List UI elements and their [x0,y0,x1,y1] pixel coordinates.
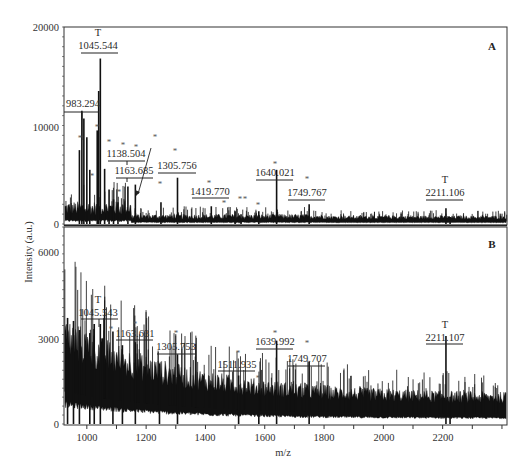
peak-label-b-1163: 1163.631 [116,328,155,339]
star-icon: * [173,146,178,156]
x-tick-1800: 1800 [314,432,335,443]
x-tick-2000: 2000 [374,432,395,443]
x-tick-1000: 1000 [77,432,98,443]
y-tick-a-20000: 20000 [33,22,59,33]
peak-marker-t: T [95,294,102,305]
y-tick-a-0: 0 [54,219,59,230]
x-axis [62,27,502,429]
panel-a-annotations: T 1045.544 983.294 1138.504 1163.685 130… [64,27,465,200]
mass-spectrum-figure: 20000 10000 0 6000 3000 0 Intensity (a.u… [0,0,527,476]
star-icon: * [273,159,278,169]
star-icon: * [207,178,212,188]
y-tick-b-6000: 6000 [38,247,59,258]
spectrum-a-trace [65,59,507,224]
x-tick-1400: 1400 [195,432,216,443]
star-icon: * [305,338,310,348]
x-tick-labels: 1000 1200 1400 1600 1800 2000 2200 [77,432,454,443]
star-icon: * [222,198,227,208]
peak-label-a-1138: 1138.504 [107,148,147,159]
peak-label-b-2211: 2211.107 [426,332,465,343]
star-icon: * [134,142,139,152]
peak-label-a-2211: 2211.106 [426,187,465,198]
peak-label-b-1045: 1045.543 [78,307,117,318]
star-icon: * [78,133,83,143]
star-icon: * [133,319,138,329]
peak-marker-t: T [442,319,449,330]
panel-a-label: A [488,40,496,52]
x-tick-2200: 2200 [433,432,454,443]
peak-marker-t: T [95,27,102,38]
star-icon: * [95,122,100,132]
peak-label-a-1749: 1749.767 [287,187,326,198]
star-icon: * [256,200,261,210]
star-icon: * [273,328,278,338]
x-tick-1200: 1200 [136,432,157,443]
panel-b-label: B [488,238,496,250]
star-icon: * [236,348,241,358]
star-icon: * [174,328,179,338]
peak-label-a-1045: 1045.544 [78,40,118,51]
peak-marker-t: T [442,174,449,185]
peak-label-b-1305: 1305.753 [156,341,195,352]
peak-label-b-1511: 1511.935 [218,359,257,370]
star-icon: * [153,132,158,142]
y-tick-b-3000: 3000 [38,334,59,345]
x-axis-title: m/z [275,447,291,458]
star-icon: * [256,373,261,383]
star-icon: * [158,179,163,189]
star-icon: * [243,194,248,204]
star-icon: * [109,324,114,334]
x-tick-1600: 1600 [255,432,276,443]
y-tick-b-0: 0 [54,419,59,430]
peak-label-a-1305: 1305.756 [157,160,196,171]
star-icon: * [121,140,126,150]
peak-label-a-983: 983.294 [66,98,101,109]
star-icon: * [305,174,310,184]
star-icon: * [117,187,122,197]
y-tick-a-10000: 10000 [33,122,59,133]
y-axis-a: 20000 10000 0 [33,22,59,230]
peak-label-a-1163: 1163.685 [115,165,154,176]
star-icon: * [107,137,112,147]
peak-label-b-1749: 1749.707 [287,353,326,364]
star-icon: * [90,171,95,181]
y-axis-b: 6000 3000 0 [38,247,59,430]
y-axis-title: Intensity (a.u.) [23,221,35,283]
